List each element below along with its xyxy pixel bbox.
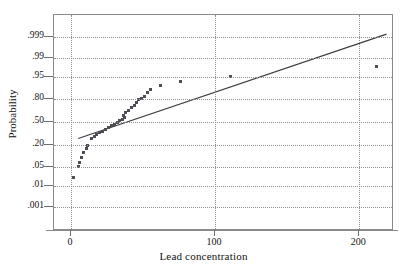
- data-point: [78, 161, 81, 164]
- reference-line: [54, 15, 394, 231]
- y-axis-tick-label: .001: [0, 201, 44, 211]
- data-point: [82, 151, 85, 154]
- y-axis-tick: [44, 36, 53, 37]
- y-axis-tick-label: .999: [0, 31, 44, 41]
- y-axis-tick: [44, 76, 53, 77]
- data-point: [85, 147, 88, 150]
- y-axis-tick: [44, 166, 53, 167]
- data-point: [133, 104, 136, 107]
- gridline-horizontal: [54, 58, 392, 59]
- data-point: [127, 109, 130, 112]
- y-axis-tick: [44, 57, 53, 58]
- y-axis-tick: [44, 185, 53, 186]
- gridline-horizontal: [54, 207, 392, 208]
- y-axis-tick: [44, 98, 53, 99]
- gridline-horizontal: [54, 145, 392, 146]
- gridline-horizontal: [54, 167, 392, 168]
- gridline-horizontal: [54, 77, 392, 78]
- data-point: [159, 84, 162, 87]
- y-axis-line: [53, 14, 54, 231]
- x-axis-title: Lead concentration: [0, 250, 407, 262]
- gridline-vertical: [71, 15, 72, 229]
- x-axis-line: [46, 230, 398, 231]
- y-axis-title: Probability: [6, 64, 18, 164]
- y-axis-tick-label: .99: [0, 52, 44, 62]
- y-axis-tick: [44, 144, 53, 145]
- gridline-horizontal: [54, 99, 392, 100]
- probability-plot-figure: .001.01.05.20.50.80.95.99.999 0100200 Le…: [0, 0, 407, 269]
- data-point: [80, 156, 83, 159]
- x-axis-tick-label: 100: [194, 236, 234, 247]
- data-point: [95, 133, 98, 136]
- gridline-vertical: [359, 15, 360, 229]
- data-point: [122, 114, 125, 117]
- data-point: [375, 65, 378, 68]
- y-axis-tick-label: .01: [0, 180, 44, 190]
- data-point: [72, 176, 75, 179]
- gridline-horizontal: [54, 37, 392, 38]
- y-axis-tick: [44, 121, 53, 122]
- data-point: [179, 80, 182, 83]
- x-axis-tick-label: 200: [338, 236, 378, 247]
- plot-area: [53, 14, 393, 230]
- gridline-vertical: [215, 15, 216, 229]
- gridline-horizontal: [54, 122, 392, 123]
- y-axis-tick: [44, 206, 53, 207]
- data-point: [146, 91, 149, 94]
- gridline-horizontal: [54, 186, 392, 187]
- data-point: [149, 88, 152, 91]
- x-axis-tick-label: 0: [50, 236, 90, 247]
- data-point: [135, 101, 138, 104]
